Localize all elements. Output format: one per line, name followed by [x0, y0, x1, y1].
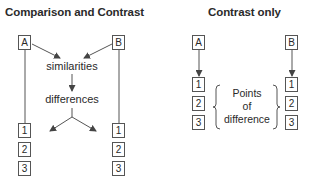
pod-line-2: of: [216, 100, 278, 113]
right-b-point-1: 1: [285, 77, 298, 92]
right-a-point-2: 2: [192, 96, 205, 111]
left-b-point-3: 3: [112, 161, 125, 176]
left-box-b: B: [112, 35, 125, 50]
differences-label: differences: [40, 93, 104, 105]
right-box-b: B: [285, 35, 298, 50]
left-diagram-title: Comparison and Contrast: [5, 6, 144, 18]
points-of-difference-label: Points of difference: [216, 87, 278, 126]
right-box-a: A: [192, 35, 205, 50]
right-a-point-3: 3: [192, 115, 205, 130]
right-a-point-1: 1: [192, 77, 205, 92]
pod-line-3: difference: [216, 113, 278, 126]
similarities-label: similarities: [40, 60, 104, 72]
left-a-point-3: 3: [18, 161, 31, 176]
left-box-a: A: [18, 35, 31, 50]
left-b-point-2: 2: [112, 142, 125, 157]
left-a-point-2: 2: [18, 142, 31, 157]
pod-line-1: Points: [216, 87, 278, 100]
right-diagram-title: Contrast only: [208, 6, 281, 18]
left-a-point-1: 1: [18, 123, 31, 138]
right-b-point-3: 3: [285, 115, 298, 130]
left-b-point-1: 1: [112, 123, 125, 138]
right-b-point-2: 2: [285, 96, 298, 111]
